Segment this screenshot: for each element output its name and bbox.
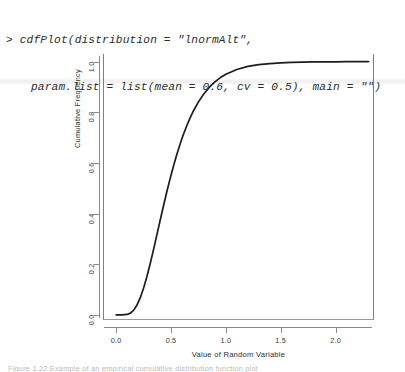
y-tick-label: 1.0 — [88, 61, 97, 72]
figure-caption: Figure 1.22 Example of an empirical cumu… — [8, 364, 398, 372]
y-tick-label: 0.2 — [88, 264, 97, 275]
x-tick — [171, 328, 172, 333]
y-tick-label: 0.8 — [88, 112, 97, 123]
y-tick-label: 0.0 — [88, 314, 97, 325]
x-tick — [116, 328, 117, 333]
y-tick-label: 0.6 — [88, 162, 97, 173]
x-tick — [281, 328, 282, 333]
x-tick-label: 1.0 — [213, 336, 239, 345]
cdf-plot-figure: 0.00.20.40.60.81.0 0.00.51.01.52.0 Cumul… — [0, 40, 405, 365]
x-axis-line — [104, 327, 372, 328]
x-tick-label: 0.0 — [103, 336, 129, 345]
y-axis-title: Cumulative Frequency — [73, 69, 82, 148]
x-axis-title: Value of Random Variable — [103, 350, 374, 359]
x-tick — [226, 328, 227, 333]
cdf-curve — [103, 54, 374, 320]
x-tick — [336, 328, 337, 333]
y-tick-label: 0.4 — [88, 213, 97, 224]
x-tick-label: 0.5 — [158, 336, 184, 345]
y-axis-line — [99, 56, 100, 318]
x-tick-label: 1.5 — [268, 336, 294, 345]
x-tick-label: 2.0 — [323, 336, 349, 345]
